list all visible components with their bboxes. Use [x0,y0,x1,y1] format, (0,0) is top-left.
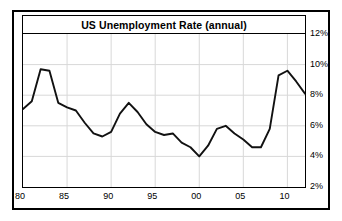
x-tick-label: 10 [279,191,289,201]
y-tick-label: 12% [310,28,328,38]
x-tick-label: 80 [15,191,25,201]
y-tick-label: 2% [310,181,323,191]
plot-area [22,33,306,188]
y-tick-label: 8% [310,89,323,99]
x-tick-label: 85 [59,191,69,201]
y-tick-label: 6% [310,120,323,130]
y-axis-labels: 2%4%6%8%10%12% [308,26,332,196]
x-tick-label: 90 [103,191,113,201]
chart-frame: US Unemployment Rate (annual) 2%4%6%8%10… [12,10,330,210]
chart-title-box: US Unemployment Rate (annual) [22,15,306,34]
x-tick-label: 95 [147,191,157,201]
x-axis-labels: 80859095000510 [22,188,306,208]
page-title: US Unemployment Rate (annual) [23,16,305,33]
data-series-line [23,69,305,156]
y-tick-label: 4% [310,150,323,160]
x-tick-label: 00 [191,191,201,201]
y-tick-label: 10% [310,59,328,69]
x-tick-label: 05 [235,191,245,201]
x-gridlines [67,34,287,187]
line-chart-svg [23,34,305,187]
